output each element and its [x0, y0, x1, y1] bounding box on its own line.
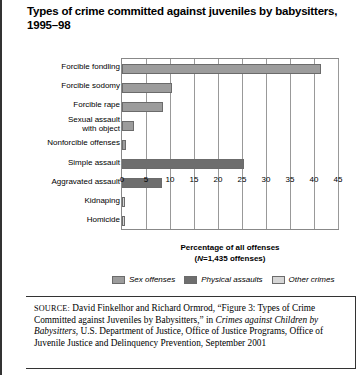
page-title: Types of crime committed against juvenil… [27, 5, 347, 32]
legend-label: Sex offenses [129, 275, 175, 284]
x-tick-label: 20 [214, 175, 223, 184]
x-tick-label: 25 [238, 175, 247, 184]
bar [122, 102, 163, 112]
category-label: Aggravated assault [16, 177, 120, 186]
gridline [314, 59, 315, 229]
gridline [338, 59, 339, 229]
gridline [194, 59, 195, 229]
legend-swatch [184, 276, 197, 284]
category-label: Simple assault [16, 158, 120, 167]
bar [122, 140, 126, 150]
x-tick-label: 45 [334, 175, 343, 184]
category-axis-labels: Forcible fondlingForcible sodomyForcible… [16, 58, 120, 230]
category-label: Homicide [16, 215, 120, 224]
bar [122, 121, 134, 131]
gridline [266, 59, 267, 229]
gridline [218, 59, 219, 229]
gridline [290, 59, 291, 229]
category-label: Forcible rape [16, 100, 120, 109]
x-axis-ticks: 051015202530354045 [121, 172, 339, 188]
legend-swatch [112, 276, 125, 284]
x-axis-label: Percentage of all offenses (N=1,435 offe… [121, 243, 339, 264]
bar [122, 64, 321, 74]
source-label: SOURCE: [34, 304, 70, 313]
plot-area [121, 58, 339, 230]
legend-item: Other crimes [272, 275, 335, 284]
bar [122, 197, 125, 207]
bar [122, 83, 172, 93]
legend-label: Other crimes [289, 275, 335, 284]
figure-container: Types of crime committed against juvenil… [0, 0, 362, 375]
x-tick-label: 40 [310, 175, 319, 184]
legend-item: Physical assaults [184, 275, 262, 284]
x-tick-label: 10 [166, 175, 175, 184]
x-tick-label: 35 [286, 175, 295, 184]
x-tick-label: 5 [144, 175, 148, 184]
category-label: Kidnaping [16, 196, 120, 205]
gridline [242, 59, 243, 229]
legend-label: Physical assaults [201, 275, 262, 284]
x-tick-label: 15 [190, 175, 199, 184]
chart-legend: Sex offensesPhysical assaultsOther crime… [112, 275, 352, 284]
chart-plot-wrapper: Forcible fondlingForcible sodomyForcible… [2, 58, 362, 238]
x-axis-label-main: Percentage of all offenses [121, 243, 339, 254]
category-label: Forcible sodomy [16, 81, 120, 90]
category-label: Forcible fondling [16, 62, 120, 71]
bar [122, 159, 244, 169]
source-note: SOURCE: David Finkelhor and Richard Ormr… [26, 296, 356, 369]
sample-size-value: =1,435 offenses) [203, 254, 265, 263]
legend-item: Sex offenses [112, 275, 175, 284]
x-tick-label: 0 [120, 175, 124, 184]
source-text-2: , U.S. Department of Justice, Office of … [34, 326, 323, 348]
x-tick-label: 30 [262, 175, 271, 184]
x-axis-label-sub: (N=1,435 offenses) [121, 254, 339, 265]
bar [122, 216, 125, 226]
category-label: Nonforcible offenses [16, 138, 120, 147]
category-label: Sexual assault with object [16, 115, 120, 133]
legend-swatch [272, 276, 285, 284]
